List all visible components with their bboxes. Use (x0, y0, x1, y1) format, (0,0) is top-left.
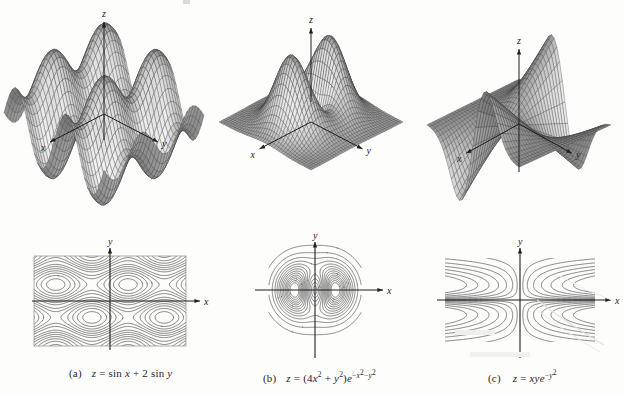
contour-b-axis-y (313, 242, 317, 358)
caption-a: (a) z = sin x + 2 sin y (69, 367, 172, 379)
surface-b-canvas: zxy (207, 4, 417, 200)
axis-label-x-a: x (40, 142, 46, 153)
contour-a-label-y: y (107, 236, 113, 247)
axis-label-z-a: z (101, 8, 106, 19)
contour-plot-b: xy (245, 240, 405, 362)
surface-plot-c: zxy (413, 4, 623, 200)
surface-a-canvas: zxy (0, 4, 210, 200)
contour-c-canvas: xy (435, 246, 623, 358)
axis-label-z-c: z (516, 35, 521, 46)
surface-c-canvas: zxy (413, 4, 623, 200)
contour-a-label-x: x (203, 296, 209, 307)
caption-b-formula: z = (4x2 + y2)e−x2−y2 (286, 372, 376, 384)
figure-root: zxy xy (a) z = sin x + 2 sin y zxy xy (b… (0, 0, 623, 395)
axis-label-x-c: x (456, 153, 462, 164)
caption-b: (b) z = (4x2 + y2)e−x2−y2 (263, 367, 376, 384)
caption-c-formula: z = xye−y2 (513, 372, 557, 384)
contour-b-canvas: xy (245, 240, 405, 362)
caption-b-label: (b) (263, 372, 276, 384)
caption-a-label: (a) (69, 367, 82, 379)
surface-plot-b: zxy (207, 4, 417, 200)
contour-c-axis-y (518, 248, 522, 358)
axis-label-z-b: z (308, 14, 313, 25)
contour-b-label-y: y (312, 230, 318, 241)
caption-c-label: (c) (488, 372, 501, 384)
axis-label-y-a: y (161, 138, 167, 149)
surface-plot-a: zxy (0, 4, 210, 200)
axis-label-y-c: y (575, 149, 581, 160)
contour-b-axis-x (255, 288, 383, 292)
contour-c-label-x: x (614, 295, 620, 306)
contour-c-label-y: y (517, 236, 523, 247)
contour-b-label-x: x (386, 285, 392, 296)
caption-c: (c) z = xye−y2 (488, 367, 557, 384)
contour-plot-c: xy (435, 246, 623, 358)
axis-label-y-b: y (366, 145, 372, 156)
contour-a-canvas: xy (18, 248, 208, 356)
caption-a-formula: z = sin x + 2 sin y (92, 367, 173, 379)
axis-label-x-b: x (249, 149, 255, 160)
contour-plot-a: xy (18, 248, 208, 356)
